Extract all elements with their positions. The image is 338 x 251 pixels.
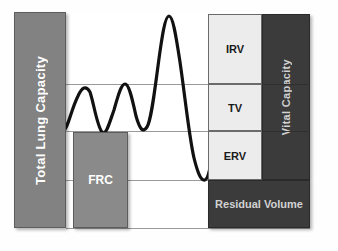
vital-capacity-label: Vital Capacity — [280, 59, 292, 135]
total-lung-capacity-label: Total Lung Capacity — [33, 56, 48, 185]
vital-capacity-divider-tv-erv — [262, 131, 310, 132]
residual-volume-box: Residual Volume — [208, 180, 310, 228]
tv-box: TV — [208, 84, 262, 131]
tv-label: TV — [228, 102, 242, 114]
vital-capacity-divider-irv-tv — [262, 84, 310, 85]
total-lung-capacity-bar: Total Lung Capacity — [14, 12, 66, 228]
irv-box: IRV — [208, 14, 262, 84]
irv-label: IRV — [226, 43, 244, 55]
erv-box: ERV — [208, 131, 262, 180]
frc-label: FRC — [88, 173, 113, 187]
lung-volume-diagram: Total Lung Capacity FRC IRV TV ERV Vital… — [0, 0, 338, 251]
frc-bar: FRC — [73, 132, 128, 228]
erv-label: ERV — [224, 150, 246, 162]
residual-volume-label: Residual Volume — [215, 198, 303, 210]
vital-capacity-bar: Vital Capacity — [262, 14, 310, 180]
reference-line-baseline — [66, 228, 310, 229]
